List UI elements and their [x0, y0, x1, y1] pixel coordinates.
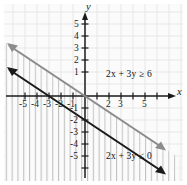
x-tick-label-2: 2: [106, 100, 111, 110]
y-tick-label-neg1: -1: [70, 104, 78, 114]
annotation-upper-inequality: 2x + 3y ≥ 6: [106, 70, 152, 80]
x-tick-label-5: 5: [142, 100, 147, 110]
y-tick-label-1: 1: [74, 68, 79, 78]
y-tick-label-3: 3: [74, 44, 79, 54]
y-tick-label-neg2: -2: [70, 116, 78, 126]
annotation-lower-inequality: 2x + 3y ≤ 0: [106, 152, 152, 162]
x-tick-label-3: 3: [118, 100, 123, 110]
coordinate-plane-svg: [0, 0, 187, 185]
y-tick-label-4: 4: [74, 32, 79, 42]
y-tick-label-neg4: -4: [70, 140, 78, 150]
graph-figure: -5 -4 -3 -2 -1 2 3 5 5 4 3 2 1 -1 -2 -3 …: [0, 0, 187, 185]
y-tick-label-5: 5: [74, 20, 79, 30]
y-axis-label: y: [86, 2, 91, 13]
y-tick-label-2: 2: [74, 56, 79, 66]
x-axis-label: x: [177, 87, 182, 98]
x-tick-label-neg5: -5: [19, 100, 27, 110]
y-tick-label-neg3: -3: [70, 128, 78, 138]
y-tick-label-neg5: -5: [70, 152, 78, 162]
x-tick-label-neg3: -3: [43, 100, 51, 110]
x-tick-label-neg4: -4: [31, 100, 39, 110]
x-tick-label-neg2: -2: [55, 100, 63, 110]
